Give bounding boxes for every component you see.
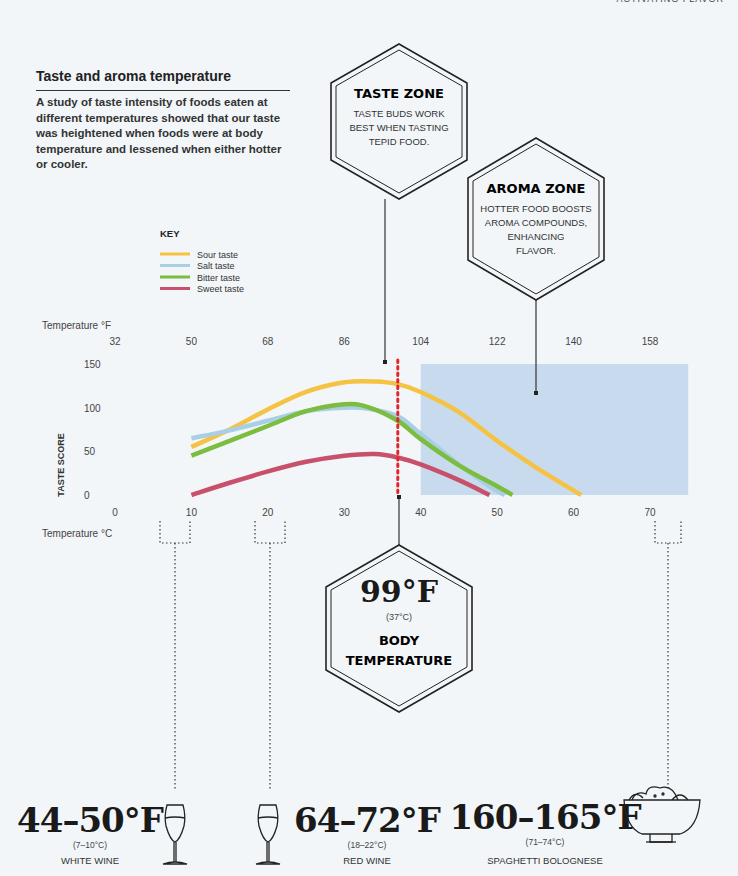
- aroma-zone-title: AROMA ZONE: [487, 181, 586, 196]
- pasta-temp: 160–165°F: [449, 797, 641, 837]
- chart-svg: TASTE ZONE TASTE BUDS WORK BEST WHEN TAS…: [0, 0, 738, 876]
- legend-label: Sour taste: [197, 250, 238, 260]
- red-wine-glass-icon: [256, 805, 280, 864]
- taste-zone-title: TASTE ZONE: [354, 86, 444, 101]
- x-tick-label-fahrenheit: 158: [642, 336, 659, 347]
- x-tick-label-fahrenheit: 122: [489, 336, 506, 347]
- body-temp-value: 99°F: [360, 574, 438, 609]
- x-tick-label-celsius: 30: [339, 507, 351, 518]
- y-axis-label: TASTE SCORE: [56, 433, 66, 496]
- x-tick-label-celsius: 70: [644, 507, 656, 518]
- pasta-label: SPAGHETTI BOLOGNESE: [487, 855, 602, 866]
- body-temp-label: BODY: [379, 633, 420, 648]
- white-wine-glass-icon: [163, 805, 187, 864]
- legend-label: Sweet taste: [197, 284, 244, 294]
- body-temperature-hexagon: [326, 545, 472, 712]
- legend: Sour tasteSalt tasteBitter tasteSweet ta…: [160, 250, 244, 295]
- taste-zone-line: BEST WHEN TASTING: [349, 122, 448, 133]
- x-tick-label-fahrenheit: 68: [262, 336, 274, 347]
- pasta-celsius: (71–74°C): [526, 837, 565, 847]
- x-tick-label-celsius: 60: [568, 507, 580, 518]
- aroma-zone-line: HOTTER FOOD BOOSTS: [480, 203, 591, 214]
- taste-zone-line: TEPID FOOD.: [369, 136, 430, 147]
- legend-title: KEY: [160, 228, 180, 239]
- x-tick-label-fahrenheit: 32: [109, 336, 121, 347]
- y-tick-label: 100: [84, 403, 101, 414]
- x-tick-label-celsius: 40: [415, 507, 427, 518]
- aroma-zone-line: FLAVOR.: [516, 245, 556, 256]
- aroma-zone-band: [421, 364, 689, 495]
- legend-label: Bitter taste: [197, 273, 240, 283]
- x-tick-label-fahrenheit: 140: [565, 336, 582, 347]
- x-tick-label-fahrenheit: 104: [412, 336, 429, 347]
- x-tick-label-celsius: 50: [492, 507, 504, 518]
- y-tick-label: 150: [84, 359, 101, 370]
- body-temp-celsius: (37°C): [386, 612, 412, 622]
- white-wine-celsius: (7–10°C): [73, 840, 107, 850]
- celsius-axis-label: Temperature °C: [42, 528, 112, 539]
- x-tick-label-celsius: 10: [186, 507, 198, 518]
- x-tick-label-celsius: 20: [262, 507, 274, 518]
- white-wine-label: WHITE WINE: [61, 855, 119, 866]
- aroma-zone-line: ENHANCING: [507, 231, 564, 242]
- red-wine-bracket: [255, 521, 285, 543]
- x-tick-label-fahrenheit: 50: [186, 336, 198, 347]
- white-wine-temp: 44–50°F: [17, 800, 164, 840]
- red-wine-label: RED WINE: [343, 855, 391, 866]
- legend-label: Salt taste: [197, 261, 235, 271]
- x-tick-label-celsius: 0: [112, 507, 118, 518]
- fahrenheit-axis-label: Temperature °F: [42, 320, 111, 331]
- y-tick-label: 50: [84, 446, 96, 457]
- pasta-bracket: [655, 521, 681, 543]
- red-wine-celsius: (18–22°C): [348, 840, 387, 850]
- aroma-zone-hexagon: [468, 138, 604, 395]
- white-wine-bracket: [160, 521, 190, 543]
- y-tick-label: 0: [84, 490, 90, 501]
- red-wine-temp: 64–72°F: [294, 800, 441, 840]
- body-temp-label: TEMPERATURE: [346, 653, 452, 668]
- x-tick-label-fahrenheit: 86: [339, 336, 351, 347]
- taste-zone-line: TASTE BUDS WORK: [353, 108, 445, 119]
- aroma-zone-line: AROMA COMPOUNDS,: [485, 217, 587, 228]
